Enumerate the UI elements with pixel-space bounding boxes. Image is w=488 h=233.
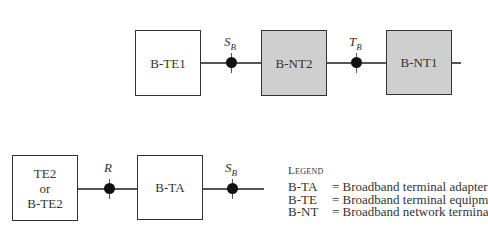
reference-point-sb-dot (226, 57, 237, 68)
legend-title: Legend (288, 164, 488, 176)
reference-label-sb: SB (225, 160, 237, 178)
te2-label-line3: B-TE2 (27, 196, 62, 211)
b-nt1-box: B-NT1 (386, 30, 452, 95)
reference-label-tb: TB (349, 34, 362, 52)
reference-label-r: R (104, 160, 112, 176)
reference-label-sb: SB (224, 34, 236, 52)
reference-point-sb-dot (227, 183, 238, 194)
te2-label-line2: or (40, 181, 51, 196)
b-te1-box: B-TE1 (135, 30, 201, 96)
b-ta-label: B-TA (155, 180, 184, 195)
reference-point-tb-dot (351, 57, 362, 68)
b-nt2-box: B-NT2 (261, 30, 327, 96)
b-ta-box: B-TA (137, 155, 203, 220)
b-nt1-label: B-NT1 (401, 55, 438, 70)
te2-box: TE2 or B-TE2 (12, 155, 78, 221)
legend: Legend B-TA= Broadband terminal adapter … (288, 164, 488, 219)
te2-label-line1: TE2 (34, 166, 56, 181)
legend-entry: B-NT= Broadband network termina (288, 206, 488, 219)
reference-point-r-dot (104, 183, 115, 194)
b-te1-label: B-TE1 (150, 56, 185, 71)
b-nt2-label: B-NT2 (276, 56, 313, 71)
connector-line-stub (452, 62, 461, 64)
